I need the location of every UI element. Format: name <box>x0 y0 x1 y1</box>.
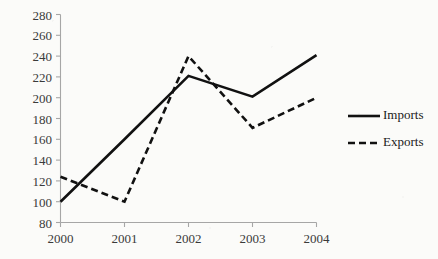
chart-legend: Imports Exports <box>348 107 423 149</box>
y-tick-label: 220 <box>33 70 53 85</box>
series-line-exports <box>61 56 317 202</box>
y-tick-labels: 280 260 240 220 200 180 160 140 120 100 … <box>33 8 53 231</box>
line-chart: 280 260 240 220 200 180 160 140 120 100 … <box>0 0 438 259</box>
y-tick-label: 160 <box>33 132 53 147</box>
y-tick-label: 120 <box>33 174 53 189</box>
y-tick-marks <box>56 15 61 223</box>
y-tick-label: 240 <box>33 49 53 64</box>
y-tick-label: 180 <box>33 112 53 127</box>
legend-item-imports[interactable]: Imports <box>348 107 423 122</box>
chart-screenshot: 280 260 240 220 200 180 160 140 120 100 … <box>0 0 438 259</box>
x-tick-label: 2002 <box>176 231 202 246</box>
x-tick-label: 2003 <box>240 231 266 246</box>
series-line-imports <box>61 55 317 202</box>
x-tick-label: 2000 <box>48 231 74 246</box>
legend-label-exports: Exports <box>383 134 423 149</box>
y-tick-label: 80 <box>39 216 52 231</box>
y-tick-label: 200 <box>33 91 53 106</box>
chart-axes <box>61 15 317 223</box>
y-tick-label: 140 <box>33 153 53 168</box>
x-tick-marks <box>61 223 317 228</box>
y-tick-label: 280 <box>33 8 53 23</box>
x-tick-label: 2001 <box>112 231 138 246</box>
legend-label-imports: Imports <box>383 107 423 122</box>
y-tick-label: 100 <box>33 195 53 210</box>
legend-item-exports[interactable]: Exports <box>348 134 423 149</box>
y-tick-label: 260 <box>33 28 53 43</box>
x-tick-labels: 2000 2001 2002 2003 2004 <box>48 231 331 246</box>
x-tick-label: 2004 <box>304 231 331 246</box>
